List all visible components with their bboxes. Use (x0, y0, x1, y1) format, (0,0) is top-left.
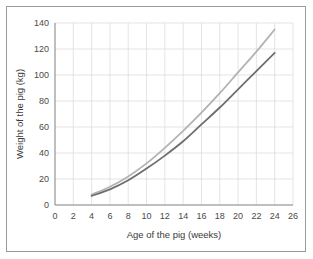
x-tick-label: 12 (160, 211, 170, 221)
x-tick-labels-group: 02468101214161820222426 (52, 211, 298, 221)
x-tick-label: 22 (251, 211, 261, 221)
y-tick-label: 100 (34, 70, 49, 80)
y-tick-label: 120 (34, 44, 49, 54)
y-axis-title: Weight of the pig (kg) (14, 69, 25, 159)
x-tick-label: 10 (142, 211, 152, 221)
x-tick-label: 18 (215, 211, 225, 221)
y-tick-label: 20 (39, 174, 49, 184)
y-tick-labels-group: 020406080100120140 (34, 18, 49, 210)
figure-border-frame: 020406080100120140 024681012141618202224… (6, 6, 306, 252)
x-tick-label: 0 (52, 211, 57, 221)
x-tick-label: 16 (196, 211, 206, 221)
y-tick-label: 80 (39, 96, 49, 106)
x-tick-label: 24 (270, 211, 280, 221)
chart-plot-container: 020406080100120140 024681012141618202224… (7, 7, 307, 253)
y-tick-label: 140 (34, 18, 49, 28)
figure-root: 020406080100120140 024681012141618202224… (0, 0, 313, 259)
y-tick-label: 40 (39, 148, 49, 158)
x-tick-label: 4 (89, 211, 94, 221)
x-tick-label: 20 (233, 211, 243, 221)
x-tick-label: 26 (288, 211, 298, 221)
x-tick-label: 14 (178, 211, 188, 221)
growth-curve-chart: 020406080100120140 024681012141618202224… (7, 7, 307, 253)
x-tick-label: 2 (71, 211, 76, 221)
x-tick-label: 8 (126, 211, 131, 221)
x-tick-label: 6 (107, 211, 112, 221)
y-tick-label: 60 (39, 122, 49, 132)
y-tick-label: 0 (44, 200, 49, 210)
x-axis-title: Age of the pig (weeks) (127, 229, 222, 240)
